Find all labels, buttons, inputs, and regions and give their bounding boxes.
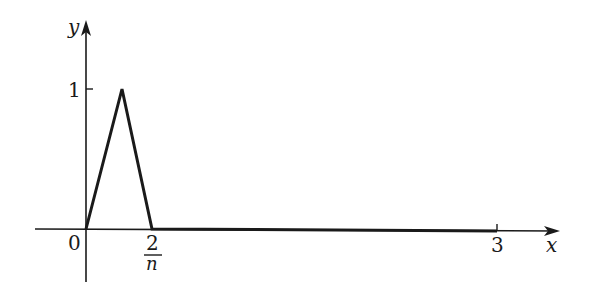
x-tick-label-three: 3 (491, 233, 504, 257)
triangle-function-plot: y 1 0 2 n 3 x (0, 0, 590, 296)
function-curve (86, 89, 497, 231)
x-axis-label: x (546, 233, 557, 257)
origin-label: 0 (68, 231, 81, 255)
x-tick-label-frac-num: 2 (146, 231, 159, 255)
y-tick-label-one: 1 (68, 78, 81, 102)
x-tick-label-frac-den: n (146, 253, 158, 274)
y-axis-label: y (67, 15, 80, 39)
